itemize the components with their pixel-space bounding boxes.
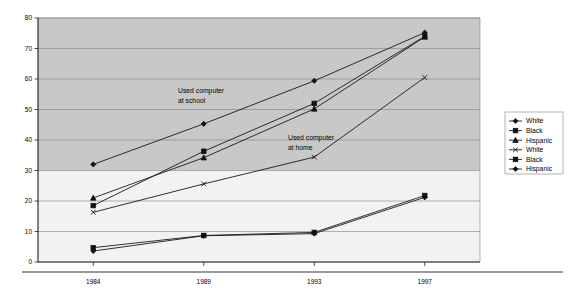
y-axis-ticks bbox=[35, 18, 39, 262]
legend-item-home-black[interactable]: Black bbox=[509, 156, 543, 163]
x-tick-label: 1984 bbox=[86, 278, 101, 285]
y-tick-label: 20 bbox=[25, 197, 33, 204]
legend-item-label: Black bbox=[526, 156, 543, 163]
legend-item-school-black[interactable]: Black bbox=[509, 127, 543, 134]
y-tick-label: 60 bbox=[25, 75, 33, 82]
data-point bbox=[312, 101, 317, 106]
y-tick-label: 80 bbox=[25, 14, 33, 21]
line-chart: 01020304050607080 1984198919931997 Used … bbox=[0, 0, 583, 293]
y-axis-tick-labels: 01020304050607080 bbox=[25, 14, 33, 265]
annotation-school-line2: at school bbox=[178, 97, 206, 104]
y-tick-label: 0 bbox=[28, 258, 32, 265]
annotation-home-line1: Used computer bbox=[288, 134, 335, 142]
x-tick-label: 1997 bbox=[418, 278, 433, 285]
x-tick-label: 1993 bbox=[307, 278, 322, 285]
legend: WhiteBlackHispanicWhiteBlackHispanic bbox=[505, 112, 563, 174]
x-axis-tick-labels: 1984198919931997 bbox=[86, 278, 432, 285]
legend-item-label: Hispanic bbox=[526, 165, 553, 173]
legend-item-label: White bbox=[526, 117, 544, 124]
data-point bbox=[201, 149, 206, 154]
y-tick-label: 10 bbox=[25, 228, 33, 235]
data-point bbox=[91, 203, 96, 208]
y-tick-label: 50 bbox=[25, 106, 33, 113]
x-axis-ticks bbox=[93, 262, 425, 266]
y-tick-label: 30 bbox=[25, 167, 33, 174]
annotation-home-line2: at home bbox=[288, 144, 313, 151]
legend-marker-square-icon bbox=[513, 157, 518, 162]
legend-item-label: Black bbox=[526, 127, 543, 134]
legend-item-label: White bbox=[526, 146, 544, 153]
plot-background-upper bbox=[38, 18, 480, 171]
y-tick-label: 70 bbox=[25, 45, 33, 52]
annotation-school-line1: Used computer bbox=[178, 87, 225, 95]
plot-background-lower bbox=[38, 171, 480, 263]
y-tick-label: 40 bbox=[25, 136, 33, 143]
chart-container: 01020304050607080 1984198919931997 Used … bbox=[0, 0, 583, 293]
legend-item-label: Hispanic bbox=[526, 137, 553, 145]
legend-marker-square-icon bbox=[513, 128, 518, 133]
x-tick-label: 1989 bbox=[197, 278, 212, 285]
